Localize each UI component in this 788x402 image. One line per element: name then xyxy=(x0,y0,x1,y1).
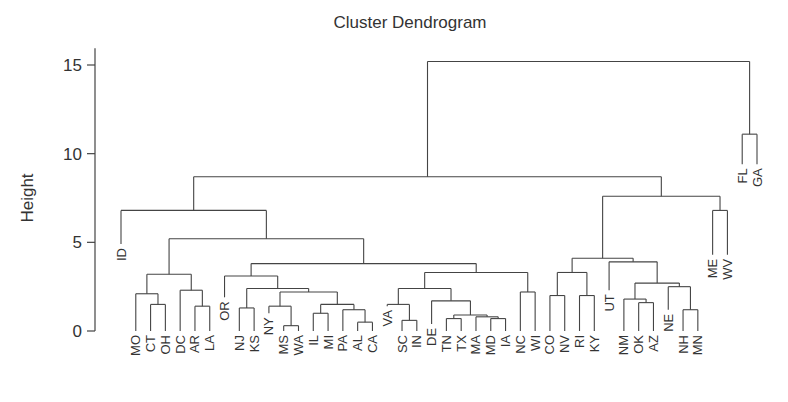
leaf-label: VA xyxy=(380,310,395,327)
leaf-label: WV xyxy=(720,258,735,279)
leaf-label: AL xyxy=(350,335,365,351)
leaf-label: UT xyxy=(602,294,617,311)
leaf-label: IL xyxy=(306,335,321,346)
leaf-label: AZ xyxy=(646,335,661,352)
leaf-label: DC xyxy=(173,335,188,354)
leaf-label: WA xyxy=(291,335,306,356)
y-tick-label: 15 xyxy=(63,56,82,75)
leaf-label: MO xyxy=(128,335,143,356)
leaf-label: ID xyxy=(114,248,129,261)
leaf-label: RI xyxy=(572,335,587,348)
dendrogram-chart: Cluster Dendrogram 051015 Height CTOHMOA… xyxy=(0,0,788,402)
leaf-label: LA xyxy=(202,335,217,351)
leaf-label: MS xyxy=(276,335,291,355)
leaf-label: NJ xyxy=(232,335,247,351)
y-tick-label: 10 xyxy=(63,145,82,164)
leaf-label: SC xyxy=(395,335,410,353)
leaf-label: KS xyxy=(247,335,262,353)
y-axis-label: Height xyxy=(18,173,37,222)
leaf-label: MN xyxy=(690,335,705,355)
leaf-label: NH xyxy=(676,335,691,354)
leaf-label: NY xyxy=(261,317,276,335)
leaf-label: CT xyxy=(143,335,158,352)
leaf-label: PA xyxy=(335,335,350,352)
leaf-label: NC xyxy=(513,335,528,354)
leaf-label: GA xyxy=(750,168,765,187)
dendrogram-branches xyxy=(121,61,757,331)
leaf-label: NM xyxy=(616,335,631,355)
leaf-label: DE xyxy=(424,328,439,346)
y-tick-label: 5 xyxy=(73,233,82,252)
leaf-label: KY xyxy=(587,335,602,353)
dendrogram-svg: Cluster Dendrogram 051015 Height CTOHMOA… xyxy=(0,0,788,402)
leaf-label: TX xyxy=(454,335,469,352)
leaf-label: WI xyxy=(528,335,543,351)
leaf-label: NE xyxy=(661,313,676,331)
y-axis: 051015 xyxy=(63,48,95,341)
leaf-label: CA xyxy=(365,335,380,353)
leaf-label: AR xyxy=(187,335,202,353)
leaf-label: MI xyxy=(321,335,336,349)
leaf-label: FL xyxy=(735,168,750,183)
leaf-label: MA xyxy=(468,335,483,355)
leaf-label: OR xyxy=(217,301,232,321)
chart-title: Cluster Dendrogram xyxy=(333,13,486,32)
leaf-label: MD xyxy=(483,335,498,355)
leaf-label: OH xyxy=(158,335,173,355)
leaf-label: ME xyxy=(705,258,720,278)
leaf-label: CO xyxy=(542,335,557,355)
leaf-label: OK xyxy=(631,335,646,354)
leaf-label: NV xyxy=(557,335,572,353)
leaf-label: IA xyxy=(498,335,513,348)
leaf-label: IN xyxy=(409,335,424,348)
leaf-label: TN xyxy=(439,335,454,352)
y-tick-label: 0 xyxy=(73,322,82,341)
